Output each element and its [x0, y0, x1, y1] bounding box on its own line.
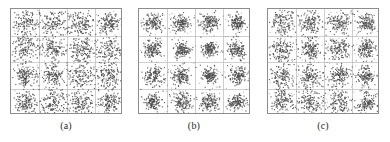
panel-b: (b)	[138, 8, 250, 131]
scatter-canvas-b	[139, 9, 250, 114]
caption-a: (a)	[60, 121, 72, 131]
plot-area-b	[138, 8, 250, 114]
plot-area-c	[267, 8, 379, 114]
panel-c: (c)	[267, 8, 379, 131]
constellation-figure: (a) (b) (c)	[0, 0, 390, 142]
scatter-canvas-a	[11, 9, 122, 114]
scatter-canvas-c	[268, 9, 379, 114]
panel-a: (a)	[10, 8, 122, 131]
plot-area-a	[10, 8, 122, 114]
caption-c: (c)	[317, 121, 329, 131]
caption-b: (b)	[188, 121, 200, 131]
